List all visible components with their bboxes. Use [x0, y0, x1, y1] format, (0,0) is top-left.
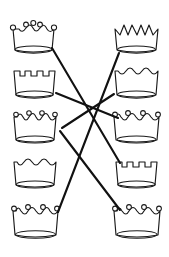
crown-left-3-ball-3: [40, 111, 45, 116]
crown-right-5-ball-2: [127, 205, 132, 210]
crown-left-3-ball-4: [53, 112, 58, 117]
crown-right-4[interactable]: [116, 162, 157, 188]
crown-left-2-body: [14, 71, 55, 97]
crown-left-5-ball-2: [26, 205, 31, 210]
crown-left-5-ball-3: [41, 205, 46, 210]
crown-left-1-ball-mid-a: [24, 22, 29, 27]
crown-right-1-body: [115, 25, 158, 52]
worksheet-canvas: [0, 0, 169, 257]
crown-left-1-ball-top: [31, 21, 36, 26]
crown-matching-worksheet: [0, 0, 169, 257]
crown-left-5-ball-1: [12, 206, 17, 211]
crown-right-5-ball-4: [157, 206, 162, 211]
matching-lines: [52, 48, 120, 212]
match-line-left5-right1[interactable]: [58, 53, 119, 212]
crown-left-3-ball-2: [27, 111, 32, 116]
crown-left-4[interactable]: [14, 159, 56, 188]
crown-left-1-ball-mid-b: [38, 22, 43, 27]
crown-right-4-body: [116, 162, 157, 187]
crown-right-3-ball-2: [126, 111, 131, 116]
match-line-left3-right5[interactable]: [60, 131, 120, 210]
crown-right-3-ball-4: [156, 112, 161, 117]
crown-left-1[interactable]: [10, 21, 56, 54]
crown-right-3-ball-3: [141, 111, 146, 116]
crown-left-3[interactable]: [14, 111, 58, 143]
crown-left-5[interactable]: [12, 205, 60, 239]
crown-left-3-ball-1: [14, 112, 19, 117]
crown-right-2[interactable]: [115, 68, 158, 98]
crown-left-1-body: [13, 25, 54, 52]
crown-right-5-ball-3: [142, 205, 147, 210]
crown-left-4-body: [14, 159, 56, 187]
crown-left-1-ball-right: [51, 25, 56, 30]
crown-left-2[interactable]: [14, 71, 55, 98]
crown-right-3[interactable]: [113, 111, 161, 143]
crown-left-1-ball-left: [10, 25, 15, 30]
crown-right-1[interactable]: [115, 25, 158, 53]
